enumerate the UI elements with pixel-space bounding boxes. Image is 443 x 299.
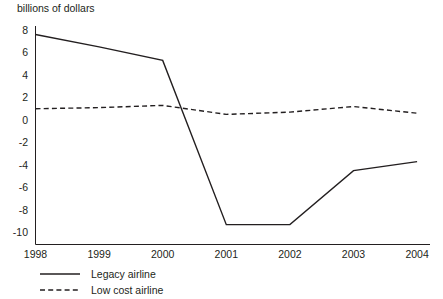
legend-item-legacy-airline: Legacy airline [38, 266, 163, 282]
legend: Legacy airline Low cost airline [38, 266, 163, 298]
y-tick-label: -4 [2, 160, 28, 171]
y-tick-label: -6 [2, 182, 28, 193]
x-tick-label: 1999 [77, 249, 121, 260]
y-tick-label: -8 [2, 205, 28, 216]
x-tick-label: 2003 [332, 249, 376, 260]
chart-figure: billions of dollars 86420-2-4-6-8-10 199… [0, 0, 443, 299]
x-tick-label: 2002 [268, 249, 312, 260]
y-tick-label: -2 [2, 137, 28, 148]
y-tick-label: 6 [2, 47, 28, 58]
legend-swatch-solid-icon [38, 269, 82, 279]
x-tick-label: 2000 [141, 249, 185, 260]
x-tick-label: 2001 [204, 249, 248, 260]
legend-swatch-dashed-icon [38, 285, 82, 295]
x-tick-label: 1998 [14, 249, 58, 260]
legend-label-low-cost-airline: Low cost airline [91, 285, 163, 296]
y-tick-label: 0 [2, 115, 28, 126]
axis-lines [36, 26, 431, 245]
legend-item-low-cost-airline: Low cost airline [38, 282, 163, 298]
y-tick-label: 8 [2, 25, 28, 36]
y-tick-label: -10 [2, 227, 28, 238]
x-tick-label: 2004 [395, 249, 439, 260]
series-line-low-cost-airline [36, 105, 418, 114]
legend-label-legacy-airline: Legacy airline [91, 269, 156, 280]
series-lines [36, 35, 418, 225]
y-tick-label: 2 [2, 92, 28, 103]
y-tick-label: 4 [2, 70, 28, 81]
series-line-legacy-airline [36, 35, 418, 225]
